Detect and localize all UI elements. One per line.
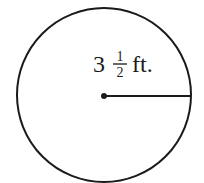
radius-whole: 3: [93, 51, 105, 77]
circle-diagram: 3 1 2 ft.: [0, 0, 204, 183]
radius-label: 3 1 2 ft.: [93, 49, 153, 80]
radius-fraction-denominator: 2: [117, 65, 124, 80]
center-point: [101, 93, 107, 99]
radius-unit: ft.: [132, 51, 153, 77]
radius-fraction-numerator: 1: [117, 49, 124, 64]
